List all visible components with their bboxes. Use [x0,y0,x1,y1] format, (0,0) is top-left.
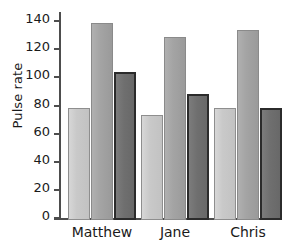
y-axis-tick: 20 [54,189,60,191]
plot-area: 020406080100120140MatthewJaneChris [59,10,282,220]
y-axis-tick-label: 140 [25,11,50,27]
x-axis-category-label: Chris [214,224,282,240]
y-axis-tick-label: 20 [33,180,50,196]
y-axis-tick: 120 [54,48,60,50]
x-axis-category-label: Jane [141,224,209,240]
bar-chris-series-2 [237,30,259,220]
bar-jane-series-1 [141,115,163,220]
y-axis-tick: 80 [54,105,60,107]
y-axis-tick: 40 [54,161,60,163]
y-axis-tick: 100 [54,76,60,78]
bar-jane-series-3 [187,94,209,220]
x-axis-category-label: Matthew [68,224,136,240]
pulse-rate-bar-chart: Pulse rate 020406080100120140MatthewJane… [0,0,286,247]
y-axis-tick-label: 80 [33,96,50,112]
y-axis-tick: 140 [54,20,60,22]
bar-chris-series-3 [260,108,282,220]
y-axis-tick-label: 40 [33,152,50,168]
bar-matthew-series-1 [68,108,90,220]
bar-jane-series-2 [164,37,186,220]
bar-matthew-series-2 [91,23,113,220]
y-axis-tick-label: 120 [25,39,50,55]
y-axis-tick-label: 100 [25,67,50,83]
y-axis-tick: 0 [54,217,60,219]
bar-chris-series-1 [214,108,236,220]
y-axis-tick-label: 0 [42,208,50,224]
y-axis-tick-label: 60 [33,124,50,140]
y-axis-tick: 60 [54,133,60,135]
bar-matthew-series-3 [114,72,136,220]
y-axis-title: Pulse rate [10,46,25,146]
